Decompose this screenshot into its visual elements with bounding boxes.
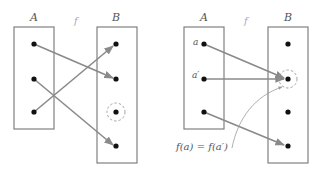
equal-images-annotation: f(a) = f(a′) [175,141,228,152]
function-label: f [73,15,80,26]
set-b-box [97,27,137,163]
diagram-canvas: A B f A B f a a′ f(a) = f(a′) [0,0,329,177]
point-a-label: a [193,37,198,47]
domain-point [201,76,206,81]
domain-point [31,109,36,114]
domain-point [201,41,206,46]
set-b-label: B [283,11,292,24]
codomain-point [285,41,290,46]
codomain-point [113,109,118,114]
mapping-arrow [204,44,284,78]
domain-point [31,76,36,81]
codomain-point [113,41,118,46]
set-b-label: B [111,11,120,24]
set-a-label: A [199,11,208,24]
point-a-prime-label: a′ [192,70,199,80]
mapping-arrow [34,46,113,112]
domain-point [31,41,36,46]
left-diagram: A B f [14,11,137,163]
codomain-point [113,143,118,148]
right-diagram: A B f a a′ f(a) = f(a′) [175,11,308,163]
set-b-box [268,27,308,163]
codomain-point [285,76,290,81]
domain-point [201,109,206,114]
codomain-point [285,143,290,148]
codomain-point [285,109,290,114]
mapping-arrow [34,44,113,78]
function-label: f [243,15,250,26]
mapping-arrow [34,79,113,145]
annotation-pointer [232,87,282,148]
set-a-label: A [29,11,38,24]
codomain-point [113,76,118,81]
